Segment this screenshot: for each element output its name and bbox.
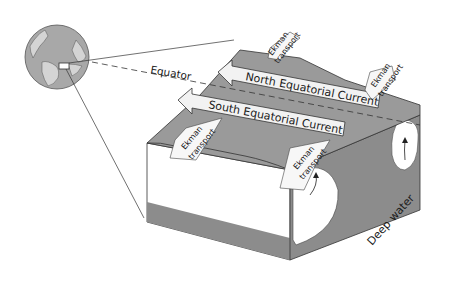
- ocean-currents-diagram: Equator North Equatorial Current South E…: [0, 0, 449, 293]
- equator-label: Equator: [150, 63, 193, 82]
- leader-line-bottom: [66, 69, 144, 218]
- globe-highlight-box: [59, 63, 69, 69]
- leader-line-top: [69, 40, 234, 63]
- globe-inset: [25, 25, 89, 89]
